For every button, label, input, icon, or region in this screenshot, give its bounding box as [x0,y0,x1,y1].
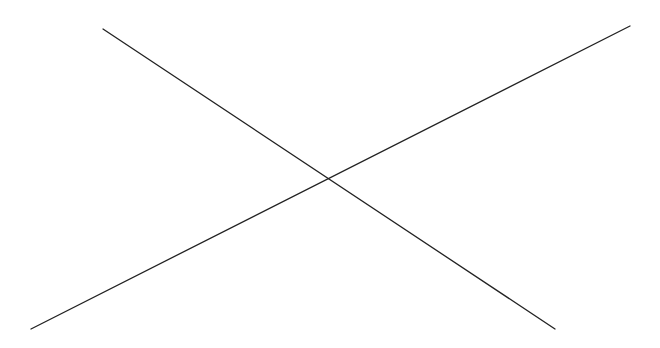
descending-line [103,29,555,329]
ascending-line [31,26,630,329]
diagram-canvas [0,0,660,348]
crossing-lines-diagram [0,0,660,348]
